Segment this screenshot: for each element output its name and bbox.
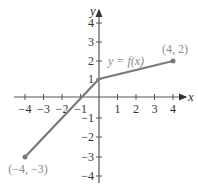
- svg-text:2: 2: [133, 102, 139, 116]
- end-point-label: (4, 2): [162, 42, 188, 56]
- svg-text:3: 3: [152, 102, 158, 116]
- curve-label: y = f(x): [107, 54, 144, 68]
- y-axis-label: y: [88, 3, 96, 18]
- function-graph: −4 −3 −2 −1 1 2 3 4 4 3 2 1 −1 −2 −3 −4 …: [0, 0, 198, 189]
- svg-text:−2: −2: [81, 130, 94, 144]
- x-axis-label: x: [187, 89, 194, 104]
- end-point: [171, 59, 176, 64]
- svg-text:1: 1: [115, 102, 121, 116]
- start-point-label: (−4, −3): [8, 162, 48, 176]
- svg-text:−3: −3: [37, 102, 50, 116]
- x-tick-labels: −4 −3 −2 −1 1 2 3 4: [19, 102, 176, 116]
- svg-text:−3: −3: [81, 150, 94, 164]
- svg-text:4: 4: [170, 102, 176, 116]
- start-point: [23, 155, 28, 160]
- svg-text:−4: −4: [81, 169, 94, 183]
- svg-text:3: 3: [88, 35, 94, 49]
- y-tick-labels: 4 3 2 1 −1 −2 −3 −4: [81, 16, 94, 183]
- svg-text:2: 2: [88, 54, 94, 68]
- svg-text:−4: −4: [19, 102, 32, 116]
- svg-text:−1: −1: [81, 111, 94, 125]
- svg-text:4: 4: [88, 16, 94, 30]
